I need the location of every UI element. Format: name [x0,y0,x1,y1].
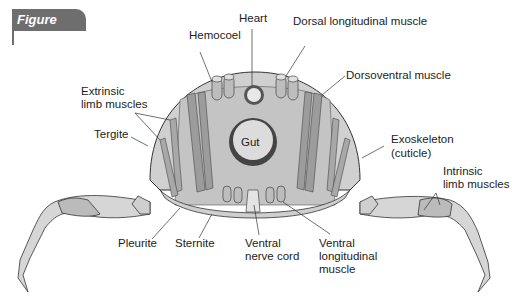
label-vlm-line1: Ventral [319,237,355,250]
label-vnc-line1: Ventral [245,237,281,250]
label-vlm-line3: muscle [319,263,355,276]
label-dorsoventral-muscle: Dorsoventral muscle [346,69,451,82]
label-heart: Heart [239,12,267,25]
label-pleurite: Pleurite [118,237,157,250]
label-gut: Gut [241,136,260,149]
label-exoskeleton-line1: Exoskeleton [391,133,454,146]
ventral-nerve-cord [246,190,260,212]
label-dorsal-longitudinal-muscle: Dorsal longitudinal muscle [293,15,427,28]
label-exoskeleton-line2: (cuticle) [391,147,431,160]
label-extrinsic-line1: Extrinsic [81,85,124,98]
label-vlm-line2: longitudinal [319,250,377,263]
heart [244,85,264,105]
label-tergite: Tergite [94,128,129,141]
label-hemocoel: Hemocoel [189,29,241,42]
label-extrinsic-line2: limb muscles [81,98,147,111]
label-sternite: Sternite [175,237,215,250]
label-intrinsic-line2: limb muscles [443,178,509,191]
label-intrinsic-line1: Intrinsic [443,165,483,178]
right-leg [360,196,490,292]
label-vnc-line2: nerve cord [245,250,299,263]
